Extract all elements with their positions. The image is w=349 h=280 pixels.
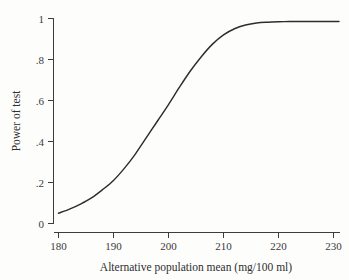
x-tick-marks <box>59 233 334 239</box>
y-tick-label: 1 <box>39 13 45 25</box>
x-tick-label: 210 <box>215 240 232 252</box>
x-tick-label: 190 <box>105 240 122 252</box>
x-tick-label: 180 <box>50 240 67 252</box>
y-tick-label: .2 <box>36 177 44 189</box>
x-tick-label: 200 <box>160 240 177 252</box>
y-tick-label: .4 <box>36 136 45 148</box>
y-axis-title: Power of test <box>10 90 22 151</box>
x-axis-title: Alternative population mean (mg/100 ml) <box>100 261 292 274</box>
power-curve-line <box>59 22 340 214</box>
power-curve-figure: 1 .8 .6 .4 .2 0 180 190 200 210 220 230 … <box>0 0 349 280</box>
y-tick-marks <box>48 19 54 224</box>
x-tick-labels: 180 190 200 210 220 230 <box>50 240 342 252</box>
x-tick-label: 220 <box>270 240 287 252</box>
y-tick-label: .8 <box>36 54 45 66</box>
x-tick-label: 230 <box>325 240 342 252</box>
y-tick-labels: 1 .8 .6 .4 .2 0 <box>36 13 45 230</box>
y-tick-label: 0 <box>39 218 45 230</box>
chart-canvas: 1 .8 .6 .4 .2 0 180 190 200 210 220 230 … <box>0 0 349 280</box>
y-tick-label: .6 <box>36 95 45 107</box>
